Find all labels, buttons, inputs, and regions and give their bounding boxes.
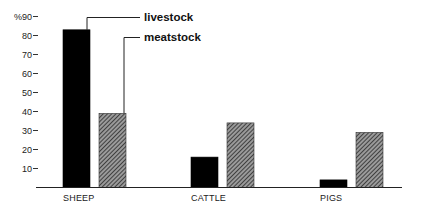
category-label: SHEEP — [63, 193, 95, 203]
legend-livestock-label: livestock — [144, 11, 194, 23]
bar-meatstock-pigs — [356, 132, 383, 187]
category-label: PIGS — [320, 193, 342, 203]
y-tick-label: 30 — [22, 126, 32, 136]
meatstock-callout-line — [124, 38, 140, 114]
bar-meatstock-sheep — [99, 113, 126, 187]
category-labels: SHEEPCATTLEPIGS — [63, 193, 342, 203]
y-tick-label: 70 — [22, 50, 32, 60]
category-label: CATTLE — [191, 193, 226, 203]
y-tick-label: %90 — [14, 12, 32, 22]
y-tick-label: 20 — [22, 145, 32, 155]
y-tick-label: 40 — [22, 107, 32, 117]
bar-livestock-sheep — [63, 30, 90, 188]
bar-livestock-pigs — [320, 180, 347, 188]
y-tick-label: 50 — [22, 88, 32, 98]
legend-callouts: livestockmeatstock — [87, 11, 201, 113]
bars — [63, 30, 383, 188]
y-tick-label: 80 — [22, 31, 32, 41]
legend-meatstock-label: meatstock — [144, 31, 201, 43]
bar-chart: 1020304050607080%90 SHEEPCATTLEPIGS live… — [0, 0, 422, 211]
livestock-callout-line — [87, 18, 140, 30]
bar-meatstock-cattle — [227, 123, 254, 188]
y-axis: 1020304050607080%90 — [14, 12, 38, 174]
bar-livestock-cattle — [191, 157, 218, 187]
y-tick-label: 10 — [22, 164, 32, 174]
y-tick-label: 60 — [22, 69, 32, 79]
